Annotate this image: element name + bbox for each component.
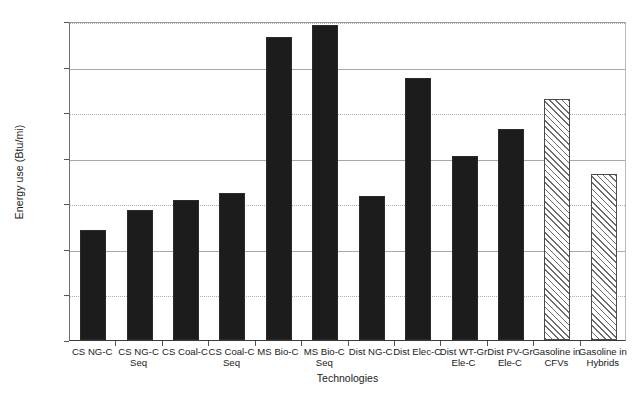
- x-category-label: Gasoline in Hybrids: [572, 346, 634, 369]
- bar: [359, 196, 385, 340]
- bar-chart: Energy use (Btu/mi) 01000200030004000500…: [0, 0, 643, 393]
- bar: [591, 174, 617, 340]
- bar: [173, 200, 199, 340]
- bar: [266, 37, 292, 340]
- y-tick-mark: [64, 68, 69, 69]
- y-tick-mark: [64, 204, 69, 205]
- y-tick-mark: [64, 22, 69, 23]
- y-tick-mark: [64, 113, 69, 114]
- plot-area: [69, 22, 626, 341]
- bar: [80, 230, 106, 340]
- bar: [498, 129, 524, 340]
- y-tick-mark: [64, 341, 69, 342]
- bar: [312, 25, 338, 340]
- bars-layer: [70, 23, 625, 340]
- bar: [405, 78, 431, 340]
- y-tick-mark: [64, 295, 69, 296]
- bar: [219, 193, 245, 340]
- bar: [544, 99, 570, 340]
- bar: [452, 156, 478, 340]
- y-tick-mark: [64, 250, 69, 251]
- bar: [127, 210, 153, 340]
- x-axis-title: Technologies: [69, 372, 626, 384]
- y-tick-mark: [64, 159, 69, 160]
- y-axis-title: Energy use (Btu/mi): [13, 92, 25, 252]
